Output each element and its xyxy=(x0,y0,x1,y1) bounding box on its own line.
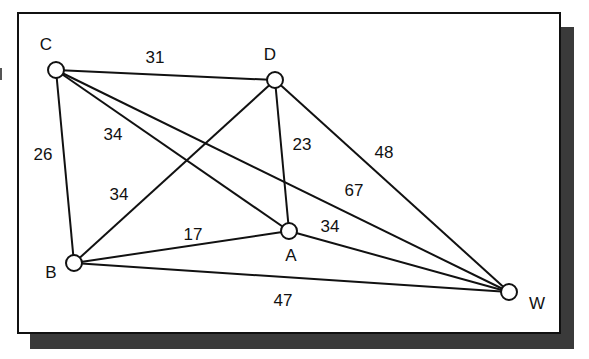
edge-weight-label: 34 xyxy=(321,217,340,236)
edge-weight-label: 67 xyxy=(345,181,364,200)
edge-weight-label: 47 xyxy=(274,291,293,310)
edge-b-w xyxy=(74,263,509,292)
node-c-circle-icon xyxy=(48,62,64,78)
edge-weight-label: 34 xyxy=(104,125,123,144)
edge-weight-label: 26 xyxy=(34,145,53,164)
edge-weight-label: 31 xyxy=(146,48,165,67)
edge-weight-label: 48 xyxy=(375,143,394,162)
node-label-a: A xyxy=(285,246,297,265)
edge-weight-label: 23 xyxy=(293,135,312,154)
node-a-circle-icon xyxy=(281,223,297,239)
node-labels-layer: CDABW xyxy=(40,35,545,313)
node-label-c: C xyxy=(40,35,52,54)
edge-c-a xyxy=(56,70,289,231)
edge-c-b xyxy=(56,70,74,263)
edge-b-a xyxy=(74,231,289,263)
edge-d-b xyxy=(74,80,275,263)
node-label-d: D xyxy=(264,45,276,64)
edges-layer xyxy=(56,70,509,292)
node-w-circle-icon xyxy=(501,284,517,300)
node-b-circle-icon xyxy=(66,255,82,271)
edge-d-a xyxy=(275,80,289,231)
edge-c-d xyxy=(56,70,275,80)
edge-weight-label: 17 xyxy=(184,225,203,244)
edge-weight-label: 34 xyxy=(110,185,129,204)
node-d-circle-icon xyxy=(267,72,283,88)
edge-c-w xyxy=(56,70,509,292)
node-label-w: W xyxy=(529,294,545,313)
graph-canvas: 31263467342348173447 CDABW xyxy=(0,0,589,359)
node-label-b: B xyxy=(45,263,56,282)
